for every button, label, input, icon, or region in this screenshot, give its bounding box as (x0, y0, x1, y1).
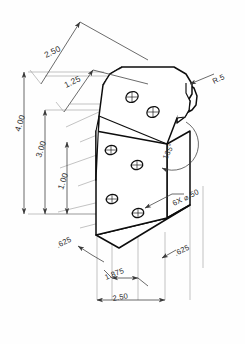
part-body (96, 67, 197, 248)
callout-radius-leader (190, 74, 214, 84)
dim-left-middle-label: 3.00 (33, 139, 48, 158)
drawing-sheet: 2.50 1.25 4.00 3.00 1.00 .625 (0, 0, 245, 344)
dim-left-outer-label: 4.00 (12, 113, 27, 132)
dim-left-inner-label: 1.00 (55, 171, 70, 190)
drawing-canvas: 2.50 1.25 4.00 3.00 1.00 .625 (0, 0, 245, 344)
dim-bottom-right-offset-label: .625 (173, 243, 191, 258)
dim-bottom-left-offset-label: .625 (55, 235, 73, 250)
dim-bottom-overall-label: 2.50 (112, 291, 129, 303)
dimension-bottom-left-offset (78, 246, 104, 262)
dim-top-outer-label: 2.50 (42, 43, 62, 59)
dim-bottom-middle-label: 1.875 (103, 266, 125, 282)
